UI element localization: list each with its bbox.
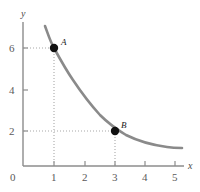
x-tick-label-5: 5 xyxy=(172,172,178,183)
plot-canvas xyxy=(0,0,200,192)
x-tick-label-1: 1 xyxy=(51,172,57,183)
guide-lines-point-a xyxy=(24,48,54,165)
data-point-a xyxy=(50,44,58,52)
y-axis-ticks xyxy=(23,48,28,131)
y-tick-label-6: 6 xyxy=(9,43,15,54)
guide-lines-point-b xyxy=(24,131,115,165)
x-tick-label-0: 0 xyxy=(10,172,16,183)
x-tick-label-4: 4 xyxy=(142,172,148,183)
x-tick-label-2: 2 xyxy=(82,172,88,183)
data-point-b xyxy=(111,127,119,135)
y-tick-label-2: 2 xyxy=(9,126,15,137)
point-label-a: A xyxy=(61,38,67,47)
y-axis-label: y xyxy=(21,9,25,19)
point-label-b: B xyxy=(121,121,127,130)
y-tick-label-4: 4 xyxy=(9,85,15,96)
x-tick-label-3: 3 xyxy=(112,172,118,183)
x-axis-label: x xyxy=(188,161,192,171)
graph-figure: y x A B 2 4 6 0 1 2 3 4 5 xyxy=(0,0,200,192)
